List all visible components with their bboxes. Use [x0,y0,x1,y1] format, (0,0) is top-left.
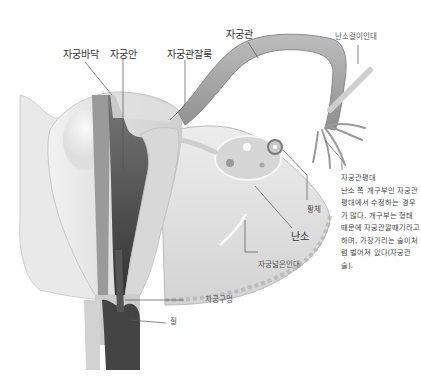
label-corpus-luteum: 황체 [307,206,321,214]
description-title: 자궁관평대 [341,172,421,185]
follicle [243,143,251,151]
label-fallopian-tube: 자궁관 [226,30,253,40]
vaginal-wall-left [84,300,100,370]
fundus-top [110,93,178,122]
fimbriae [313,124,365,168]
label-cavity: 자궁안 [110,50,137,60]
label-suspensory-ligament: 난소걸이인대 [335,33,377,41]
follicle-dark [226,159,234,167]
corpus-luteum-center [273,145,277,149]
description-body: 난소 쪽 개구부인 자궁관평대에서 수정하는 경우가 많다. 개구부는 형태 때… [341,185,421,273]
follicle-small [260,163,265,168]
label-vagina: 질 [170,318,177,326]
leader-fundus [85,62,112,95]
label-isthmus: 자궁관잘룩 [167,50,212,60]
fimbriae-description: 자궁관평대 난소 쪽 개구부인 자궁관평대에서 수정하는 경우가 많다. 개구부… [341,172,421,272]
label-broad-ligament: 자궁넓은인대 [258,261,300,269]
label-ovary: 난소 [291,232,309,242]
label-os: 자궁구멍 [205,296,233,304]
label-fundus: 자궁바닥 [63,50,99,60]
